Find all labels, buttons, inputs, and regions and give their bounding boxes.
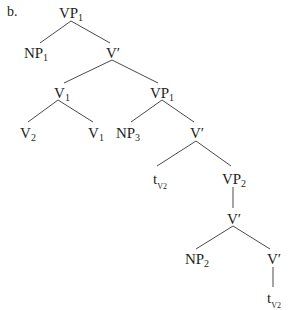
node-sub-subscript: 2 <box>277 301 281 310</box>
node-label: VP <box>150 85 169 101</box>
node-vbar_2: V′ <box>190 125 204 141</box>
node-subscript: 2 <box>31 132 36 143</box>
node-subscript: 1 <box>78 12 83 23</box>
node-np3: NP3 <box>116 125 140 141</box>
node-subscript: 3 <box>135 132 140 143</box>
branch-vp1_root-vbar_1 <box>71 21 110 43</box>
branch-v1_mid-v2 <box>28 100 58 122</box>
node-label: NP <box>185 251 204 267</box>
node-np1: NP1 <box>24 45 48 61</box>
node-label: V′ <box>190 125 204 141</box>
node-label: V′ <box>267 251 281 267</box>
node-vbar_1: V′ <box>106 45 120 61</box>
node-sub-subscript: 2 <box>163 182 167 191</box>
node-label: V <box>88 125 99 141</box>
node-trace_2: tV2 <box>267 290 281 306</box>
branch-vbar_3-vbar_4 <box>233 226 270 249</box>
branch-vp1_root-np1 <box>40 21 71 43</box>
node-subscript: 2 <box>241 178 246 189</box>
node-vp1_inner: VP1 <box>150 85 174 101</box>
node-v2: V2 <box>20 125 36 141</box>
example-label: b. <box>7 4 18 20</box>
node-trace_1: tV2 <box>153 171 167 187</box>
branch-vbar_1-v1_mid <box>64 60 112 83</box>
node-label: VP <box>222 171 241 187</box>
node-label: NP <box>116 125 135 141</box>
node-label: V <box>20 125 31 141</box>
node-subscript: 1 <box>99 132 104 143</box>
node-vbar_3: V′ <box>227 211 241 227</box>
branch-vp1_inner-np3 <box>131 100 162 122</box>
node-label: V <box>54 85 65 101</box>
branch-v1_mid-v1_leaf <box>58 100 93 122</box>
node-subscript: 1 <box>169 92 174 103</box>
branch-vbar_2-trace_1 <box>157 141 196 166</box>
node-np2: NP2 <box>185 251 209 267</box>
node-subscript: 1 <box>43 52 48 63</box>
node-label: V′ <box>106 45 120 61</box>
node-label: V′ <box>227 211 241 227</box>
node-vp1_root: VP1 <box>59 5 83 21</box>
node-subscript: 2 <box>204 258 209 269</box>
node-vbar_4: V′ <box>267 251 281 267</box>
branch-vbar_2-vp2 <box>196 141 231 166</box>
branch-vp1_inner-vbar_2 <box>162 100 194 122</box>
node-vp2: VP2 <box>222 171 246 187</box>
node-v1_mid: V1 <box>54 85 70 101</box>
node-subscript: 1 <box>65 92 70 103</box>
node-label: VP <box>59 5 78 21</box>
branch-vbar_3-np2 <box>196 226 233 249</box>
branch-vbar_1-vp1_inner <box>112 60 158 83</box>
node-label: NP <box>24 45 43 61</box>
node-v1_leaf: V1 <box>88 125 104 141</box>
